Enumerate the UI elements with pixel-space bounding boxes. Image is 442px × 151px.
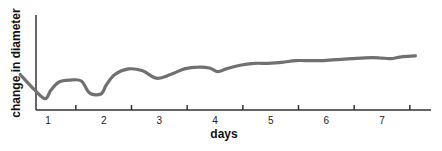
x-tick-label: 2 xyxy=(101,115,107,126)
y-axis-title: change in diameter xyxy=(9,8,23,118)
x-tick-label: 3 xyxy=(157,115,163,126)
data-series-line xyxy=(20,56,415,99)
x-axis-title: days xyxy=(210,127,238,141)
x-tick-label: 5 xyxy=(268,115,274,126)
x-tick-label: 6 xyxy=(324,115,330,126)
x-tick-label: 4 xyxy=(212,115,218,126)
x-tick-label: 7 xyxy=(379,115,385,126)
x-tick-label: 1 xyxy=(45,115,51,126)
x-axis-tick-labels: 1234567 xyxy=(45,115,385,126)
line-chart: 1234567 days change in diameter xyxy=(0,0,442,151)
